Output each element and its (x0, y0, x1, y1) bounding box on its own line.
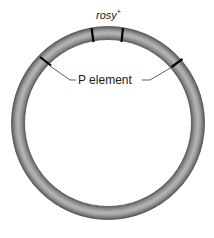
p-element-left-leader (50, 66, 76, 80)
plasmid-svg: rosy+ P element (0, 0, 214, 238)
p-element-right-leader (142, 67, 172, 80)
rosy-right-tick (122, 28, 124, 42)
plasmid-ring (12, 27, 205, 220)
p-element-label: P element (78, 73, 132, 87)
rosy-label: rosy+ (96, 8, 121, 21)
plasmid-diagram: rosy+ P element (0, 0, 214, 238)
